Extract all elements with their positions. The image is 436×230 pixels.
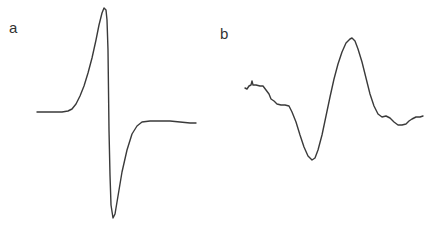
spectra-figure: a b [0,0,436,230]
spectra-plot-area [0,0,436,230]
spectrum-trace-b [245,38,423,160]
spectrum-trace-a [37,8,196,218]
